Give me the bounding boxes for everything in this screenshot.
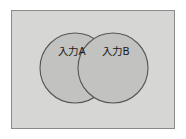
venn-diagram-figure: 入力A 入力B [0,0,186,139]
venn-label-set-a: 入力A [58,45,86,57]
venn-label-set-b: 入力B [102,45,129,57]
venn-diagram-canvas: 入力A 入力B [0,0,186,139]
venn-circle-set-b [78,33,148,103]
